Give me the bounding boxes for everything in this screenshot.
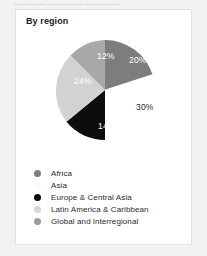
legend-label-africa: Africa xyxy=(51,169,72,178)
legend-label-asia: Asia xyxy=(51,181,67,190)
clipped-header-text: —— —— ————— ————— xyxy=(14,0,154,7)
legend-label-latin-america-caribbean: Latin America & Caribbean xyxy=(51,205,149,214)
legend-swatch-icon-africa xyxy=(34,170,41,177)
legend-item-latin-america-caribbean[interactable]: Latin America & Caribbean xyxy=(34,204,184,216)
legend-swatch-icon-asia xyxy=(34,182,41,189)
legend-label-europe-central-asia: Europe & Central Asia xyxy=(51,193,132,202)
legend-swatch-icon-global-interregional xyxy=(34,218,41,225)
pie-label-africa: 20% xyxy=(129,55,147,65)
pie-label-europe-central-asia: 14% xyxy=(98,121,116,131)
legend-item-global-interregional[interactable]: Global and interregional xyxy=(34,216,184,228)
legend-item-africa[interactable]: Africa xyxy=(34,168,184,180)
legend-item-europe-central-asia[interactable]: Europe & Central Asia xyxy=(34,192,184,204)
pie-chart: 20% 30% 14% 24% 12% xyxy=(16,28,191,152)
legend-item-asia[interactable]: Asia xyxy=(34,180,184,192)
pie-label-latin-america-caribbean: 24% xyxy=(74,76,92,86)
legend-swatch-icon-europe-central-asia xyxy=(34,194,41,201)
chart-card: By region 20% 30% 14% 24% 12% Africa A xyxy=(15,9,192,245)
pie-label-global-interregional: 12% xyxy=(97,51,115,61)
legend-swatch-icon-latin-america-caribbean xyxy=(34,206,41,213)
pie-label-asia: 30% xyxy=(136,102,154,112)
legend-label-global-interregional: Global and interregional xyxy=(51,217,138,226)
chart-legend: Africa Asia Europe & Central Asia Latin … xyxy=(34,168,184,228)
chart-title: By region xyxy=(26,16,68,26)
pie-chart-svg xyxy=(16,28,191,152)
